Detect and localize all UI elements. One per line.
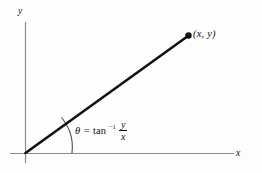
fraction-y-over-x: y x	[119, 120, 127, 142]
inverse-exponent: −1	[109, 124, 116, 131]
axis-label-x: x	[236, 149, 240, 159]
axis-label-y: y	[18, 7, 22, 17]
theta-symbol: θ	[75, 126, 80, 137]
endpoint-dot	[185, 32, 191, 38]
angle-equation: θ = tan −1 y x	[75, 120, 127, 142]
fraction-denominator: x	[120, 131, 126, 142]
figure-canvas: y x (x, y) θ = tan −1 y x	[0, 0, 262, 173]
equals-sign: =	[83, 126, 91, 137]
diagram-svg	[0, 0, 262, 173]
point-coordinate-label: (x, y)	[193, 29, 216, 40]
tan-function-name: tan	[93, 126, 106, 137]
fraction-numerator: y	[120, 120, 126, 131]
